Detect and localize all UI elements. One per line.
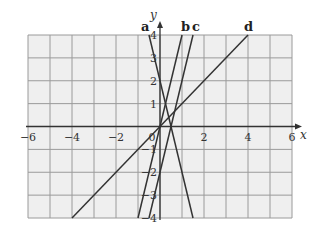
y-axis-label: y (149, 8, 157, 22)
y-axis-arrow-icon (157, 21, 163, 28)
y-tick-label: 1 (150, 98, 157, 111)
line-graph: xy −6−4−20246−4−3−2−11234 abcd (0, 0, 318, 231)
line-label-c: c (192, 19, 200, 34)
x-tick-label: 2 (201, 131, 208, 144)
x-tick-label: 6 (289, 131, 296, 144)
x-tick-label: 4 (245, 131, 252, 144)
line-label-d: d (244, 19, 253, 34)
y-tick-label: 4 (150, 29, 157, 42)
y-tick-label: 2 (150, 75, 157, 88)
x-tick-label: −2 (108, 131, 124, 144)
line-label-b: b (181, 19, 190, 34)
line-label-a: a (141, 19, 150, 34)
x-tick-label: −4 (64, 131, 80, 144)
y-tick-label: −4 (141, 212, 157, 225)
x-tick-label: −6 (20, 131, 36, 144)
x-axis-label: x (300, 128, 307, 142)
